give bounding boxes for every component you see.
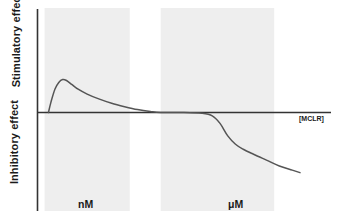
x-axis-label-concentration: [MCLR] [299, 115, 324, 122]
band-nanomolar [45, 8, 130, 211]
chart-plot-area [0, 0, 338, 223]
chart-figure: Stimulatory effect Inhibitory effect nM … [0, 0, 338, 223]
y-axis-label-inhibitory: Inhibitory effect [8, 82, 20, 202]
band-micromolar [161, 8, 275, 211]
x-axis-tick-label-micromolar: μM [228, 198, 243, 210]
x-axis-tick-label-nanomolar: nM [78, 198, 93, 210]
